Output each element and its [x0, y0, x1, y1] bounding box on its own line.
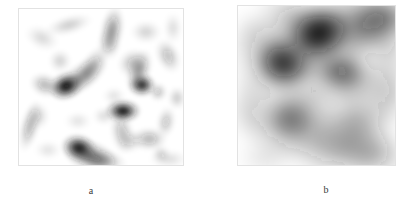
image-panel-a	[18, 8, 184, 166]
panel-a-canvas	[18, 8, 184, 166]
panel-caption-a: a	[81, 185, 101, 197]
panel-caption-b: b	[316, 184, 336, 196]
image-panel-b	[237, 5, 396, 166]
panel-b-canvas	[237, 5, 396, 166]
figure-root: a b	[0, 0, 412, 206]
